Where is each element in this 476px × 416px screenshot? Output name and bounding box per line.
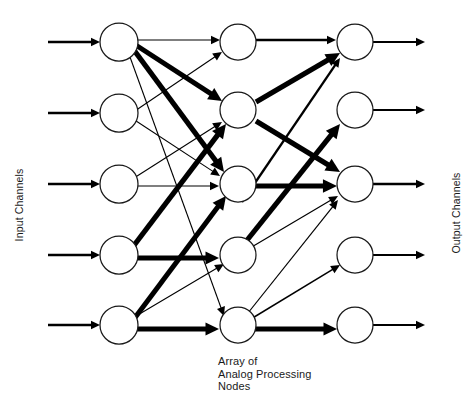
edge-mid2-out1-shaft xyxy=(256,60,329,102)
edge-mid5-out5 xyxy=(244,322,337,335)
edge-in5-mid4-shaft xyxy=(126,268,217,322)
edge-in3-mid3-head xyxy=(210,182,219,190)
input-arrow-feed-5-head xyxy=(91,321,100,329)
edge-in1-mid1-head xyxy=(211,36,220,44)
edge-in1-mid1 xyxy=(128,36,220,44)
node-mid-1[interactable] xyxy=(220,24,256,60)
output-channels-label: Output Channels xyxy=(450,158,462,268)
input-arrow-feed-4 xyxy=(48,251,100,259)
output-arrow-out-feed-5 xyxy=(373,321,425,329)
node-mid-3[interactable] xyxy=(220,166,256,202)
edge-in5-mid4 xyxy=(126,264,224,322)
output-arrow-out-feed-2-head xyxy=(416,106,425,114)
node-in-1[interactable] xyxy=(100,23,138,61)
output-arrow-out-feed-4-head xyxy=(416,251,425,259)
input-arrow-feed-1-head xyxy=(91,38,100,46)
edge-mid1-out1-head xyxy=(327,36,336,44)
node-mid-2[interactable] xyxy=(220,92,256,128)
node-in-3[interactable] xyxy=(100,165,138,203)
output-arrow-out-feed-1 xyxy=(373,38,425,46)
node-in-2[interactable] xyxy=(100,94,138,132)
input-arrow-feed-2-head xyxy=(91,109,100,117)
node-out-5[interactable] xyxy=(337,307,373,343)
edge-in5-mid3-shaft xyxy=(128,206,219,327)
edge-mid5-out5-head xyxy=(324,322,338,335)
node-out-3[interactable] xyxy=(337,166,373,202)
output-arrow-out-feed-3 xyxy=(373,180,425,188)
output-arrow-out-feed-3-head xyxy=(416,180,425,188)
edge-mid1-out1 xyxy=(256,36,336,44)
edge-in1-mid3 xyxy=(128,42,224,172)
output-arrow-out-feed-1-head xyxy=(416,38,425,46)
input-arrow-feed-3-head xyxy=(91,180,100,188)
output-arrow-out-feed-2 xyxy=(373,106,425,114)
input-arrow-feed-5 xyxy=(48,321,100,329)
edge-mid5-out4 xyxy=(246,265,340,322)
input-channels-label: Input Channels xyxy=(13,150,25,260)
edge-in1-mid5 xyxy=(126,46,225,316)
output-arrow-out-feed-5-head xyxy=(416,321,425,329)
edge-in4-mid4-head xyxy=(206,251,220,264)
node-mid-5[interactable] xyxy=(220,307,256,343)
output-arrow-out-feed-4 xyxy=(373,251,425,259)
edge-mid5-out3 xyxy=(244,200,338,318)
analog-network-diagram: Input Channels Output Channels Array of … xyxy=(0,0,476,416)
edge-mid4-out2-shaft xyxy=(244,134,332,244)
input-arrow-feed-1 xyxy=(48,38,100,46)
node-out-1[interactable] xyxy=(337,24,373,60)
node-in-4[interactable] xyxy=(100,236,138,274)
edge-mid5-out3-shaft xyxy=(244,206,333,318)
node-in-5[interactable] xyxy=(100,306,138,344)
edge-mid3-out3-head xyxy=(323,179,337,193)
edge-in1-mid3-shaft xyxy=(128,42,216,162)
array-of-analog-processing-nodes-caption: Array of Analog Processing Nodes xyxy=(218,355,311,393)
edge-in5-mid5 xyxy=(130,322,219,335)
node-out-2[interactable] xyxy=(337,92,373,128)
edge-in5-mid5-head xyxy=(206,322,220,335)
input-arrow-feed-2 xyxy=(48,109,100,117)
input-arrow-feed-4-head xyxy=(91,251,100,259)
node-out-4[interactable] xyxy=(337,237,373,273)
network-graph-svg xyxy=(0,0,476,416)
input-arrow-feed-3 xyxy=(48,180,100,188)
edge-mid5-out4-shaft xyxy=(246,269,333,322)
edge-in2-mid1-head xyxy=(212,52,222,61)
edge-mid5-out4-head xyxy=(330,265,340,273)
node-mid-4[interactable] xyxy=(220,237,256,273)
